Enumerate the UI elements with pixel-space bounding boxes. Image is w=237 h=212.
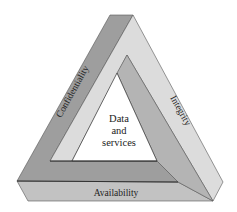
center-label-line-3: services (102, 137, 136, 148)
cia-triad-diagram: Data and services Confidentiality Integr… (0, 0, 237, 212)
center-label-line-2: and (111, 125, 127, 136)
center-label-line-1: Data (109, 113, 129, 124)
label-availability: Availability (94, 188, 139, 198)
